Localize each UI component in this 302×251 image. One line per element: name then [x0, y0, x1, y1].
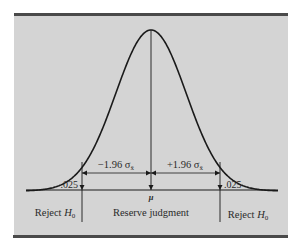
top-rule — [14, 13, 288, 16]
mean-label: μ — [148, 192, 154, 202]
bottom-rule — [13, 235, 288, 238]
left-tail-probability: .025 — [61, 179, 79, 190]
right-tail-probability: .025 — [224, 179, 242, 190]
sampling-distribution-figure: −1.96 σx̄ +1.96 σx̄ .025 .025 μ Reject H… — [0, 0, 302, 251]
center-region-label: Reserve judgment — [113, 207, 189, 218]
